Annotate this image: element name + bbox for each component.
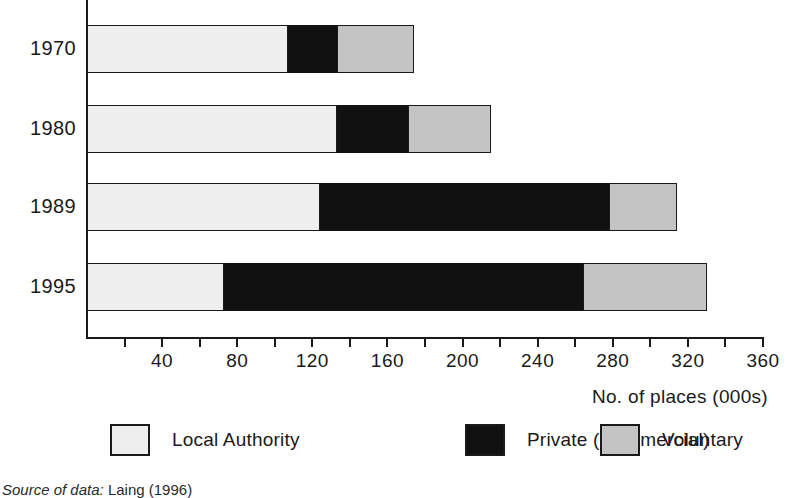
x-tick-180 <box>424 339 426 347</box>
bar-segment-1970-pv <box>288 25 337 73</box>
x-tick-20 <box>124 339 126 347</box>
bar-segment-1995-pv <box>224 263 583 311</box>
light-gray-swatch <box>110 424 150 456</box>
bar-segment-1989-vo <box>609 183 677 231</box>
x-tick-240 <box>537 339 539 347</box>
x-tick-120 <box>311 339 313 347</box>
bar-segment-1995-vo <box>583 263 707 311</box>
source-value: Laing (1996) <box>108 481 192 498</box>
x-tick-320 <box>687 339 689 347</box>
x-tick-220 <box>499 339 501 347</box>
bar-segment-1989-pv <box>320 183 609 231</box>
x-tick-160 <box>386 339 388 347</box>
bar-segment-1980-pv <box>337 105 408 153</box>
x-tick-label-360: 360 <box>746 350 779 372</box>
legend-item-vo: Voluntary <box>600 424 743 456</box>
legend-label-la: Local Authority <box>172 429 300 451</box>
black-swatch <box>465 424 505 456</box>
x-tick-340 <box>724 339 726 347</box>
bar-segment-1980-la <box>87 105 337 153</box>
x-tick-label-200: 200 <box>446 350 479 372</box>
gray-swatch <box>600 424 640 456</box>
x-tick-label-160: 160 <box>371 350 404 372</box>
x-tick-label-280: 280 <box>596 350 629 372</box>
bar-segment-1989-la <box>87 183 320 231</box>
x-tick-280 <box>612 339 614 347</box>
x-axis-title: No. of places (000s) <box>592 386 768 408</box>
chart-legend: Local AuthorityPrivate (Commercial)Volun… <box>0 424 794 464</box>
category-label-1995: 1995 <box>0 275 76 298</box>
x-tick-label-80: 80 <box>226 350 248 372</box>
x-tick-label-40: 40 <box>151 350 173 372</box>
x-tick-40 <box>161 339 163 347</box>
x-tick-label-120: 120 <box>296 350 329 372</box>
x-tick-80 <box>236 339 238 347</box>
bar-segment-1970-vo <box>337 25 414 73</box>
x-tick-140 <box>349 339 351 347</box>
x-tick-360 <box>762 339 764 347</box>
legend-label-vo: Voluntary <box>662 429 743 451</box>
x-tick-label-320: 320 <box>671 350 704 372</box>
bar-segment-1980-vo <box>408 105 491 153</box>
legend-item-la: Local Authority <box>110 424 300 456</box>
category-label-1970: 1970 <box>0 37 76 60</box>
source-label: Source of data: <box>2 481 104 498</box>
x-tick-260 <box>574 339 576 347</box>
category-label-1980: 1980 <box>0 117 76 140</box>
x-tick-300 <box>649 339 651 347</box>
x-tick-label-240: 240 <box>521 350 554 372</box>
bar-segment-1995-la <box>87 263 224 311</box>
category-label-1989: 1989 <box>0 195 76 218</box>
x-tick-100 <box>274 339 276 347</box>
source-note: Source of data: Laing (1996) <box>2 481 192 498</box>
x-tick-60 <box>199 339 201 347</box>
x-tick-200 <box>462 339 464 347</box>
bar-segment-1970-la <box>87 25 288 73</box>
